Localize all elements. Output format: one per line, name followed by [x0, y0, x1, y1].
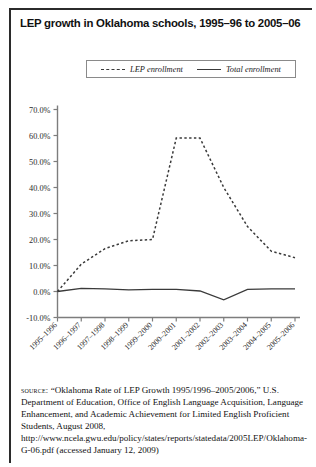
series-line-lep-enrollment	[58, 138, 296, 291]
chart-plot-area: -10.0%0.0%10.0%20.0%30.0%40.0%50.0%60.0%…	[0, 0, 316, 380]
y-axis-tick-label: 0.0%	[33, 288, 50, 297]
y-axis-tick-label: -10.0%	[26, 314, 50, 323]
y-axis-tick-label: 40.0%	[29, 184, 51, 193]
figure-container: LEP growth in Oklahoma schools, 1995–96 …	[0, 0, 316, 467]
source-note-text: “Oklahoma Rate of LEP Growth 1995/1996–2…	[21, 385, 307, 455]
y-axis-tick-label: 50.0%	[29, 158, 51, 167]
y-axis-tick-label: 30.0%	[29, 210, 51, 219]
line-chart: -10.0%0.0%10.0%20.0%30.0%40.0%50.0%60.0%…	[0, 0, 316, 380]
source-note: source: “Oklahoma Rate of LEP Growth 199…	[21, 385, 304, 456]
series-line-total-enrollment	[58, 288, 296, 299]
y-axis-tick-label: 70.0%	[29, 106, 51, 115]
y-axis-tick-label: 60.0%	[29, 132, 51, 141]
source-note-label: source:	[21, 386, 48, 395]
y-axis-tick-label: 10.0%	[29, 262, 51, 271]
y-axis-tick-label: 20.0%	[29, 236, 51, 245]
